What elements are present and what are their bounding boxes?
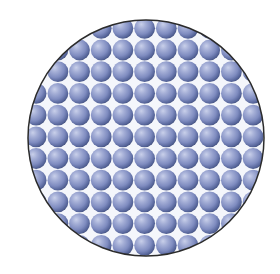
sphere [199, 18, 220, 39]
sphere [48, 192, 69, 213]
sphere [134, 126, 155, 147]
sphere [134, 192, 155, 213]
sphere [156, 192, 177, 213]
sphere [199, 83, 220, 104]
sphere [156, 105, 177, 126]
sphere [26, 192, 47, 213]
sphere [48, 105, 69, 126]
sphere [69, 61, 90, 82]
sphere [113, 148, 134, 169]
sphere [221, 148, 242, 169]
sphere [178, 170, 199, 191]
sphere [69, 235, 90, 256]
sphere [199, 126, 220, 147]
sphere [199, 40, 220, 61]
sphere [113, 61, 134, 82]
sphere [69, 170, 90, 191]
sphere [178, 40, 199, 61]
sphere [48, 61, 69, 82]
sphere [91, 170, 112, 191]
sphere [156, 61, 177, 82]
sphere [91, 40, 112, 61]
sphere [199, 148, 220, 169]
sphere [134, 148, 155, 169]
sphere [69, 192, 90, 213]
sphere [221, 126, 242, 147]
sphere [134, 40, 155, 61]
sphere [69, 105, 90, 126]
sphere [91, 192, 112, 213]
sphere [199, 170, 220, 191]
sphere [113, 192, 134, 213]
sphere-packing-illustration [0, 0, 280, 274]
sphere [156, 170, 177, 191]
sphere [113, 126, 134, 147]
sphere [199, 61, 220, 82]
sphere [221, 192, 242, 213]
sphere [178, 126, 199, 147]
sphere [221, 83, 242, 104]
sphere [134, 83, 155, 104]
sphere [91, 83, 112, 104]
sphere [69, 148, 90, 169]
sphere [156, 40, 177, 61]
sphere [134, 61, 155, 82]
sphere [134, 213, 155, 234]
sphere [221, 170, 242, 191]
sphere [91, 61, 112, 82]
sphere [91, 235, 112, 256]
sphere [69, 40, 90, 61]
sphere [48, 148, 69, 169]
sphere [134, 235, 155, 256]
figure [0, 0, 280, 274]
sphere [91, 105, 112, 126]
sphere [48, 83, 69, 104]
sphere [91, 148, 112, 169]
sphere [48, 170, 69, 191]
sphere [243, 61, 264, 82]
sphere [91, 126, 112, 147]
sphere [178, 213, 199, 234]
sphere [48, 40, 69, 61]
sphere [69, 126, 90, 147]
sphere [199, 105, 220, 126]
sphere [221, 213, 242, 234]
sphere [134, 105, 155, 126]
sphere [91, 213, 112, 234]
sphere [221, 105, 242, 126]
sphere [243, 83, 264, 104]
sphere [113, 213, 134, 234]
sphere [178, 105, 199, 126]
sphere [178, 148, 199, 169]
sphere [156, 213, 177, 234]
sphere [113, 40, 134, 61]
sphere [113, 83, 134, 104]
sphere [199, 192, 220, 213]
sphere [156, 126, 177, 147]
sphere [156, 83, 177, 104]
sphere [156, 148, 177, 169]
sphere [134, 170, 155, 191]
sphere [48, 126, 69, 147]
sphere [69, 83, 90, 104]
sphere [113, 105, 134, 126]
sphere [178, 192, 199, 213]
sphere [243, 126, 264, 147]
sphere [199, 213, 220, 234]
sphere [113, 170, 134, 191]
sphere [178, 61, 199, 82]
sphere [178, 83, 199, 104]
